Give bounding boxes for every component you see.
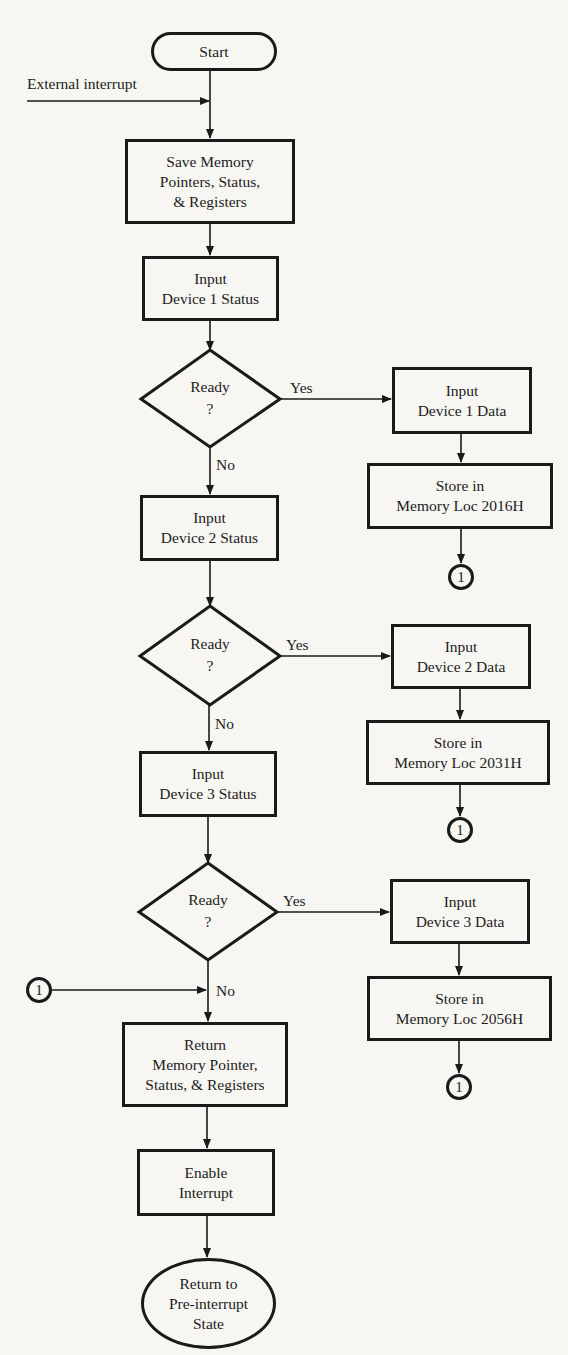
- enable-interrupt-label: Enable Interrupt: [179, 1163, 233, 1203]
- connector-label: 1: [455, 1079, 463, 1096]
- decision-3-no-label: No: [216, 982, 235, 1000]
- enable-interrupt-box: Enable Interrupt: [137, 1149, 275, 1216]
- decision-2-label: Ready ?: [160, 633, 260, 677]
- input-device-2-data-box: Input Device 2 Data: [391, 624, 531, 689]
- end-label: Return to Pre-interrupt State: [169, 1274, 248, 1334]
- store-device-2-label: Store in Memory Loc 2031H: [394, 733, 521, 773]
- store-device-2-box: Store in Memory Loc 2031H: [366, 720, 550, 785]
- start-label: Start: [199, 42, 228, 62]
- decision-2-no-label: No: [215, 715, 234, 733]
- input-device-3-data-box: Input Device 3 Data: [390, 879, 530, 944]
- device-1-data-label: Input Device 1 Data: [418, 381, 507, 421]
- connector-1-device-3: 1: [446, 1074, 472, 1100]
- store-device-3-box: Store in Memory Loc 2056H: [367, 976, 552, 1041]
- save-registers-box: Save Memory Pointers, Status, & Register…: [125, 139, 295, 224]
- input-device-1-status-box: Input Device 1 Status: [142, 256, 279, 321]
- device-2-status-label: Input Device 2 Status: [161, 508, 258, 548]
- store-device-1-box: Store in Memory Loc 2016H: [367, 463, 553, 529]
- restore-registers-box: Return Memory Pointer, Status, & Registe…: [122, 1022, 288, 1107]
- connector-label: 1: [456, 822, 464, 839]
- device-3-status-label: Input Device 3 Status: [159, 764, 256, 804]
- input-device-3-status-box: Input Device 3 Status: [139, 751, 277, 817]
- start-terminal: Start: [151, 32, 277, 71]
- restore-registers-label: Return Memory Pointer, Status, & Registe…: [145, 1035, 264, 1095]
- save-registers-label: Save Memory Pointers, Status, & Register…: [160, 152, 260, 212]
- external-interrupt-label: External interrupt: [27, 75, 137, 93]
- connector-1-device-1: 1: [448, 564, 474, 590]
- decision-2-yes-label: Yes: [286, 636, 309, 654]
- decision-3-yes-label: Yes: [283, 892, 306, 910]
- decision-1-label: Ready ?: [160, 376, 260, 420]
- store-device-1-label: Store in Memory Loc 2016H: [396, 476, 523, 516]
- input-device-2-status-box: Input Device 2 Status: [140, 495, 279, 561]
- device-3-data-label: Input Device 3 Data: [416, 892, 505, 932]
- input-device-1-data-box: Input Device 1 Data: [392, 367, 532, 434]
- device-2-data-label: Input Device 2 Data: [417, 637, 506, 677]
- connector-1-device-2: 1: [447, 817, 473, 843]
- end-terminal: Return to Pre-interrupt State: [141, 1258, 276, 1349]
- store-device-3-label: Store in Memory Loc 2056H: [396, 989, 523, 1029]
- decision-1-yes-label: Yes: [290, 379, 313, 397]
- connector-label: 1: [457, 569, 465, 586]
- decision-1-no-label: No: [216, 456, 235, 474]
- decision-3-label: Ready ?: [158, 889, 258, 933]
- device-1-status-label: Input Device 1 Status: [162, 269, 259, 309]
- connector-label: 1: [35, 982, 43, 999]
- merge-connector-1: 1: [26, 977, 52, 1003]
